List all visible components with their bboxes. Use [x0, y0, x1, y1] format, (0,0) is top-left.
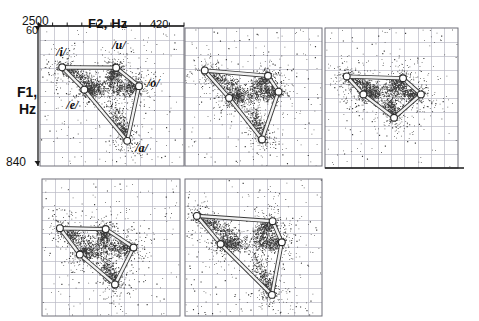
vowel-vertex-a-p2	[259, 136, 266, 143]
vowel-vertex-o-p4	[130, 244, 137, 251]
vowel-vertex-u-p2	[265, 72, 272, 79]
vowel-vertex-i-p1	[59, 64, 66, 71]
vowel-vertex-i-p4	[57, 225, 64, 232]
vowel-vertex-i-p2	[201, 67, 208, 74]
vowel-label-a: /a/	[135, 141, 148, 156]
y-axis-label-line2: Hz	[19, 101, 36, 117]
y-axis-top-tick: 60	[26, 24, 38, 36]
vowel-vertex-o-p1	[136, 83, 143, 90]
vowel-vertex-a-p4	[112, 281, 119, 288]
vowel-vertex-u-p4	[102, 226, 109, 233]
vowel-vertex-a-p5	[269, 292, 276, 299]
panel-2	[185, 28, 322, 166]
y-axis-label-line1: F1,	[17, 84, 37, 100]
vowel-vertex-a-p3	[391, 114, 398, 121]
vowel-vertex-e-p1	[81, 86, 88, 93]
vowel-label-i: /i/	[56, 45, 66, 60]
vowel-vertex-e-p5	[217, 241, 224, 248]
y-axis-bottom-tick: 840	[6, 155, 26, 169]
y-axis-arrow-bottom	[35, 161, 41, 166]
vowel-vertex-e-p2	[226, 94, 233, 101]
panel-3	[325, 28, 464, 168]
vowel-vertex-e-p3	[360, 91, 367, 98]
vowel-vertex-u-p1	[113, 64, 120, 71]
vowel-vertex-o-p2	[275, 88, 282, 95]
vowel-vertex-e-p4	[76, 251, 83, 258]
vowel-vertex-u-p3	[400, 75, 407, 82]
vowel-vertex-i-p3	[343, 73, 350, 80]
vowel-vertex-i-p5	[193, 212, 200, 219]
vowel-vertex-u-p5	[269, 218, 276, 225]
panel-4	[42, 179, 180, 316]
vowel-vertex-o-p3	[418, 91, 425, 98]
vowel-label-u: /u/	[112, 38, 125, 53]
vowel-vertex-o-p5	[278, 239, 285, 246]
x-axis-min-tick: 420	[150, 18, 168, 30]
vowel-formant-figure	[0, 0, 479, 321]
panel-5	[185, 179, 322, 316]
vowel-label-o: /o/	[147, 76, 160, 91]
vowel-vertex-a-p1	[124, 137, 131, 144]
vowel-label-e: /e/	[66, 98, 78, 113]
x-axis-label: F2, Hz	[88, 16, 127, 31]
